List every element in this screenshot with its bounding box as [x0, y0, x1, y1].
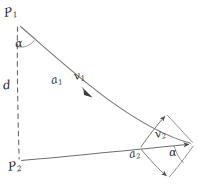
label-v2: v2 — [154, 127, 167, 142]
segment-baseline-p2-to-right — [22, 144, 189, 160]
label-alpha-top: α — [14, 38, 23, 50]
label-alpha-top-base: α — [14, 37, 23, 51]
label-d-base: d — [2, 78, 12, 93]
segment-v1-ray — [21, 27, 191, 144]
label-v1: v1 — [73, 69, 86, 84]
label-p2: P2 — [7, 159, 22, 175]
geometry-diagram: P1 d P2 α a1 v1 a2 v2 α — [0, 0, 201, 184]
label-a2: a2 — [128, 147, 141, 162]
label-p1: P1 — [3, 5, 18, 21]
label-alpha-bottom: α — [168, 147, 177, 159]
label-alpha-bottom-base: α — [168, 146, 177, 160]
label-a1: a1 — [50, 73, 63, 88]
label-d: d — [2, 79, 11, 92]
